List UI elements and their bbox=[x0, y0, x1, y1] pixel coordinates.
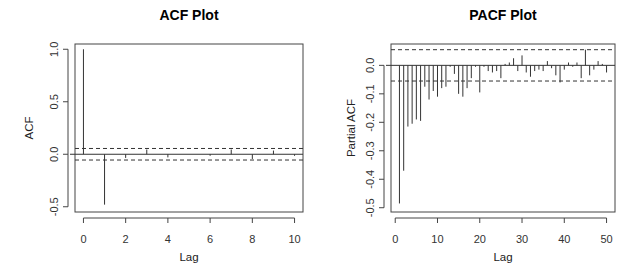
pacf-x-tick-label: 10 bbox=[431, 233, 443, 245]
acf-x-tick-label: 0 bbox=[80, 233, 86, 245]
pacf-y-tick-label: -0.4 bbox=[364, 170, 376, 189]
acf-x-tick-label: 8 bbox=[249, 233, 255, 245]
pacf-y-tick-label: -0.3 bbox=[364, 141, 376, 160]
pacf-y-tick-label: 0.0 bbox=[364, 58, 376, 73]
acf-title: ACF Plot bbox=[159, 7, 218, 23]
pacf-y-axis-label: Partial ACF bbox=[345, 99, 357, 157]
pacf-y-tick-label: -0.1 bbox=[364, 84, 376, 103]
acf-x-tick-label: 4 bbox=[165, 233, 171, 245]
pacf-x-tick-label: 20 bbox=[474, 233, 486, 245]
pacf-y-tick-label: -0.5 bbox=[364, 198, 376, 217]
acf-y-axis-label: ACF bbox=[23, 117, 35, 140]
acf-y-tick-label: -0.5 bbox=[48, 197, 60, 216]
pacf-y-tick-label: -0.2 bbox=[364, 113, 376, 132]
acf-panel: ACF Plot-0.50.00.51.00246810LagACF bbox=[23, 7, 303, 263]
acf-y-tick-label: 0.0 bbox=[48, 147, 60, 162]
acf-plot-frame bbox=[75, 44, 303, 212]
chart-figure: ACF Plot-0.50.00.51.00246810LagACFPACF P… bbox=[0, 0, 637, 280]
acf-y-tick-label: 1.0 bbox=[48, 42, 60, 57]
pacf-panel: PACF Plot-0.5-0.4-0.3-0.2-0.10.001020304… bbox=[345, 7, 615, 263]
acf-x-tick-label: 10 bbox=[288, 233, 300, 245]
acf-y-tick-label: 0.5 bbox=[48, 94, 60, 109]
pacf-x-tick-label: 50 bbox=[600, 233, 612, 245]
pacf-x-tick-label: 40 bbox=[558, 233, 570, 245]
acf-x-tick-label: 6 bbox=[207, 233, 213, 245]
pacf-x-tick-label: 0 bbox=[392, 233, 398, 245]
pacf-x-tick-label: 30 bbox=[516, 233, 528, 245]
pacf-title: PACF Plot bbox=[469, 7, 537, 23]
acf-x-axis-label: Lag bbox=[179, 251, 198, 263]
acf-x-tick-label: 2 bbox=[123, 233, 129, 245]
pacf-x-axis-label: Lag bbox=[493, 251, 512, 263]
